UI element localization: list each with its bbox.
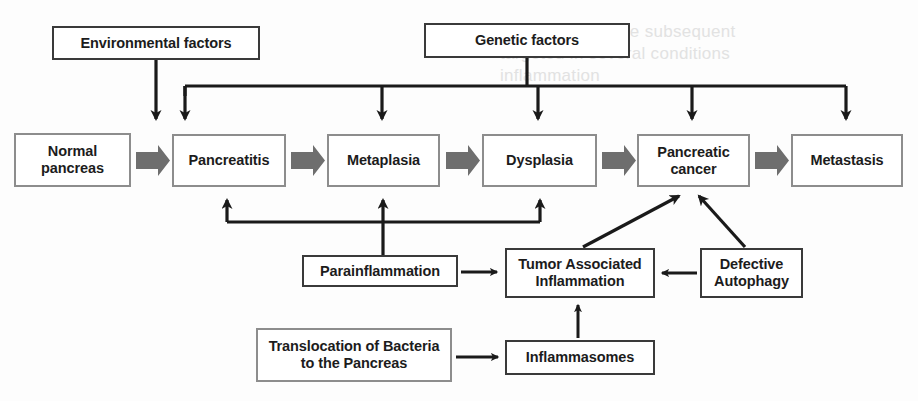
- node-label-environmental-factors: Environmental factors: [77, 35, 236, 52]
- node-label-genetic-factors: Genetic factors: [471, 32, 583, 49]
- arrow-defective-autophagy-to-pancreatic-cancer: [699, 196, 745, 247]
- arrow-normal-pancreas-to-pancreatitis: [136, 145, 170, 176]
- parainflammation-feedback-bus: [227, 200, 540, 255]
- node-label-inflammasomes: Inflammasomes: [522, 349, 638, 366]
- node-tumor-associated-inflammation[interactable]: Tumor AssociatedInflammation: [505, 248, 655, 298]
- node-inflammasomes[interactable]: Inflammasomes: [505, 340, 655, 375]
- node-metaplasia[interactable]: Metaplasia: [327, 134, 440, 187]
- genetic-bus-drops: [185, 86, 846, 119]
- arrow-dysplasia-to-pancreatic-cancer: [602, 145, 636, 176]
- connector-layer: [0, 0, 918, 401]
- node-parainflammation[interactable]: Parainflammation: [302, 255, 458, 287]
- node-label-metastasis: Metastasis: [806, 152, 887, 169]
- node-label-tumor-associated-inflammation: Tumor AssociatedInflammation: [514, 256, 645, 289]
- node-defective-autophagy[interactable]: DefectiveAutophagy: [700, 248, 803, 298]
- genetic-factors-bus: [185, 58, 846, 96]
- node-label-dysplasia: Dysplasia: [502, 152, 577, 169]
- node-label-normal-pancreas: Normalpancreas: [37, 143, 108, 176]
- node-label-translocation-of-bacteria: Translocation of Bacteriato the Pancreas: [265, 338, 444, 371]
- arrow-pancreatic-cancer-to-metastasis: [755, 145, 789, 176]
- arrow-tumor-associated-inflammation-to-pancreatic-cancer: [583, 196, 679, 247]
- node-pancreatitis[interactable]: Pancreatitis: [172, 134, 286, 187]
- diagram-canvas: cancer, and in the subsequenttargeted in…: [0, 0, 918, 401]
- node-label-pancreatic-cancer: Pancreaticcancer: [653, 144, 733, 177]
- node-label-parainflammation: Parainflammation: [316, 263, 444, 280]
- node-genetic-factors[interactable]: Genetic factors: [424, 23, 630, 58]
- node-label-defective-autophagy: DefectiveAutophagy: [710, 256, 793, 289]
- node-environmental-factors[interactable]: Environmental factors: [52, 26, 260, 60]
- node-pancreatic-cancer[interactable]: Pancreaticcancer: [637, 134, 750, 187]
- arrow-metaplasia-to-dysplasia: [446, 145, 480, 176]
- node-label-metaplasia: Metaplasia: [343, 152, 424, 169]
- node-label-pancreatitis: Pancreatitis: [184, 152, 273, 169]
- arrow-pancreatitis-to-metaplasia: [291, 145, 325, 176]
- node-metastasis[interactable]: Metastasis: [791, 134, 903, 187]
- node-translocation-of-bacteria[interactable]: Translocation of Bacteriato the Pancreas: [256, 328, 452, 382]
- node-normal-pancreas[interactable]: Normalpancreas: [14, 133, 131, 187]
- node-dysplasia[interactable]: Dysplasia: [482, 134, 597, 187]
